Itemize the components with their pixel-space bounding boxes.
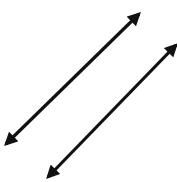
double-arrow-right: [48, 45, 176, 177]
parallel-arrows-diagram: [0, 0, 177, 182]
double-arrow-left: [6, 14, 139, 144]
